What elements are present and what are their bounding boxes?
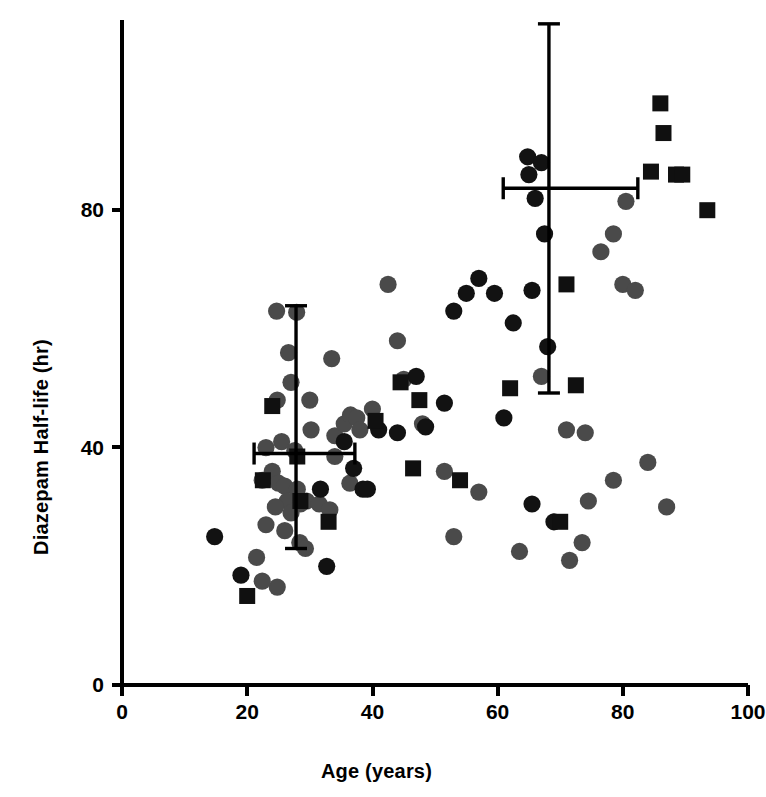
axis-lines: [112, 20, 748, 696]
data-point-circle: [527, 190, 544, 207]
data-point-circle: [639, 454, 656, 471]
data-point-circle: [301, 392, 318, 409]
data-point-circle: [276, 522, 293, 539]
data-point-square: [321, 514, 337, 530]
data-point-circle: [269, 578, 286, 595]
data-point-square: [452, 472, 468, 488]
data-point-circle: [561, 552, 578, 569]
data-point-circle: [558, 421, 575, 438]
x-tick-label-20: 20: [236, 700, 259, 724]
data-point-circle: [336, 433, 353, 450]
data-point-circle: [417, 418, 434, 435]
data-point-square: [393, 374, 409, 390]
data-point-square: [652, 95, 668, 111]
data-point-circle: [302, 421, 319, 438]
data-point-circle: [326, 448, 343, 465]
data-point-circle: [605, 225, 622, 242]
data-point-circle: [520, 166, 537, 183]
data-point-circle: [627, 282, 644, 299]
data-point-square: [643, 164, 659, 180]
data-point-circle: [592, 243, 609, 260]
x-tick-label-0: 0: [116, 700, 128, 724]
data-point-square: [699, 202, 715, 218]
data-point-circle: [523, 495, 540, 512]
data-point-circle: [605, 472, 622, 489]
data-point-square: [255, 472, 271, 488]
y-tick-label-80: 80: [60, 198, 104, 222]
data-point-circle: [318, 558, 335, 575]
data-point-square: [655, 125, 671, 141]
data-point-circle: [486, 285, 503, 302]
data-markers: [206, 95, 715, 604]
y-tick-label-0: 0: [60, 673, 104, 697]
y-tick-label-40: 40: [60, 436, 104, 460]
data-point-square: [264, 398, 280, 414]
data-point-circle: [359, 481, 376, 498]
data-point-circle: [505, 314, 522, 331]
x-tick-label-60: 60: [486, 700, 509, 724]
data-point-circle: [511, 543, 528, 560]
x-tick-label-40: 40: [361, 700, 384, 724]
data-point-square: [239, 588, 255, 604]
data-point-circle: [312, 481, 329, 498]
data-point-square: [674, 167, 690, 183]
x-tick-label-80: 80: [611, 700, 634, 724]
data-point-circle: [389, 332, 406, 349]
data-point-circle: [206, 528, 223, 545]
data-point-circle: [458, 285, 475, 302]
data-point-circle: [248, 549, 265, 566]
data-point-circle: [574, 534, 591, 551]
data-point-square: [502, 380, 518, 396]
data-point-circle: [379, 276, 396, 293]
data-point-circle: [445, 302, 462, 319]
data-point-circle: [580, 492, 597, 509]
data-point-circle: [577, 424, 594, 441]
data-point-circle: [232, 567, 249, 584]
data-point-square: [558, 276, 574, 292]
x-tick-label-100: 100: [730, 700, 765, 724]
data-point-circle: [658, 498, 675, 515]
data-point-circle: [470, 484, 487, 501]
data-point-square: [411, 392, 427, 408]
data-point-circle: [436, 394, 453, 411]
data-point-circle: [351, 421, 368, 438]
data-point-square: [552, 514, 568, 530]
data-point-circle: [408, 368, 425, 385]
data-point-circle: [268, 302, 285, 319]
data-point-circle: [436, 463, 453, 480]
data-point-circle: [267, 498, 284, 515]
data-point-circle: [523, 282, 540, 299]
data-point-circle: [470, 270, 487, 287]
data-point-square: [405, 460, 421, 476]
data-point-circle: [257, 516, 274, 533]
y-axis-title-text: Diazepam Half-life (hr): [30, 297, 53, 597]
data-point-circle: [389, 424, 406, 441]
data-point-square: [368, 413, 384, 429]
data-point-circle: [495, 409, 512, 426]
data-point-circle: [617, 193, 634, 210]
data-point-circle: [445, 528, 462, 545]
data-point-square: [568, 377, 584, 393]
y-axis-title: Diazepam Half-life (hr): [30, 297, 53, 597]
data-point-circle: [254, 573, 271, 590]
x-axis-title: Age (years): [0, 760, 753, 783]
data-point-circle: [323, 350, 340, 367]
